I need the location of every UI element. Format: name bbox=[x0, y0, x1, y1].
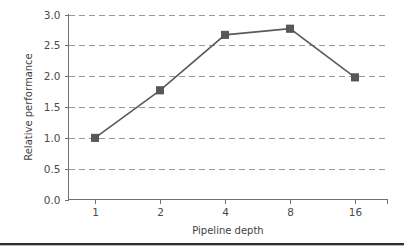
data-point-marker bbox=[351, 74, 358, 81]
y-axis-title: Relative performance bbox=[23, 53, 34, 161]
y-tick-label: 0.0 bbox=[44, 194, 61, 206]
chart-figure: 0.00.51.01.52.02.53.0 124816 Pipeline de… bbox=[0, 0, 404, 250]
line-chart: 0.00.51.01.52.02.53.0 124816 Pipeline de… bbox=[0, 0, 404, 250]
x-tick-labels-group: 124816 bbox=[92, 206, 362, 218]
data-point-marker bbox=[91, 134, 98, 141]
y-tick-marks-group bbox=[65, 16, 69, 201]
x-tick-label: 4 bbox=[222, 206, 229, 218]
series-markers-group bbox=[91, 25, 358, 141]
data-point-marker bbox=[221, 31, 228, 38]
data-point-marker bbox=[156, 87, 163, 94]
x-tick-label: 2 bbox=[157, 206, 164, 218]
figure-bottom-rule-shadow bbox=[0, 245, 404, 246]
y-tick-label: 1.5 bbox=[44, 101, 61, 113]
x-tick-marks-group bbox=[96, 200, 388, 205]
y-tick-label: 3.0 bbox=[44, 9, 61, 21]
y-tick-label: 1.0 bbox=[44, 132, 61, 144]
y-tick-label: 2.5 bbox=[44, 39, 61, 51]
x-tick-label: 1 bbox=[92, 206, 99, 218]
y-tick-label: 2.0 bbox=[44, 70, 61, 82]
y-tick-labels-group: 0.00.51.01.52.02.53.0 bbox=[44, 9, 61, 206]
data-point-marker bbox=[286, 25, 293, 32]
x-tick-label: 8 bbox=[287, 206, 294, 218]
x-tick-label: 16 bbox=[349, 206, 363, 218]
x-axis-title: Pipeline depth bbox=[192, 225, 263, 236]
y-tick-label: 0.5 bbox=[44, 163, 61, 175]
